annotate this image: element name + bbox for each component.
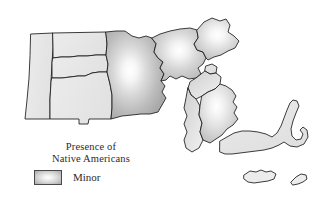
legend-title: Presence of Native Americans xyxy=(26,141,156,165)
region-bristol xyxy=(184,88,203,152)
region-nantucket xyxy=(291,174,307,185)
map-figure: Presence of Native Americans Minor xyxy=(0,0,326,207)
region-franklin xyxy=(53,32,107,58)
legend-swatch-icon xyxy=(34,170,62,185)
legend-entry-label: Minor xyxy=(73,171,101,184)
region-berkshire xyxy=(25,33,53,119)
legend-title-line-2: Native Americans xyxy=(26,153,156,165)
legend-entry-minor: Minor xyxy=(26,170,156,185)
region-dukes-marthas-vineyard xyxy=(244,170,276,183)
legend: Presence of Native Americans Minor xyxy=(26,141,156,185)
legend-title-line-1: Presence of xyxy=(26,141,156,153)
region-hampden xyxy=(50,72,112,124)
